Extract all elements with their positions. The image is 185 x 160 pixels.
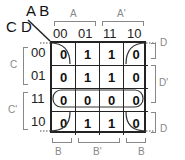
right-bracket-d-top [151,43,156,59]
loop-corner-tr [126,43,146,64]
bottom-group-label-b-right: B [138,146,145,157]
loop-row-11 [53,90,143,107]
bottom-bracket-b-prime [78,138,120,143]
grouping-loops [0,0,185,160]
bottom-group-label-b-left: B [55,146,62,157]
loop-corner-tl [50,43,70,64]
right-bracket-d-prime [151,65,156,103]
right-group-label-d-prime: D' [159,77,168,88]
loop-corner-br [126,112,146,131]
loop-corner-bl [50,112,70,131]
right-group-label-d-bottom: D [160,123,167,134]
right-group-label-d-top: D [160,37,167,48]
bottom-bracket-b-left [52,138,72,143]
right-bracket-d-bottom [151,112,156,133]
bottom-group-label-b-prime: B' [93,146,102,157]
bottom-bracket-b-right [126,138,146,143]
